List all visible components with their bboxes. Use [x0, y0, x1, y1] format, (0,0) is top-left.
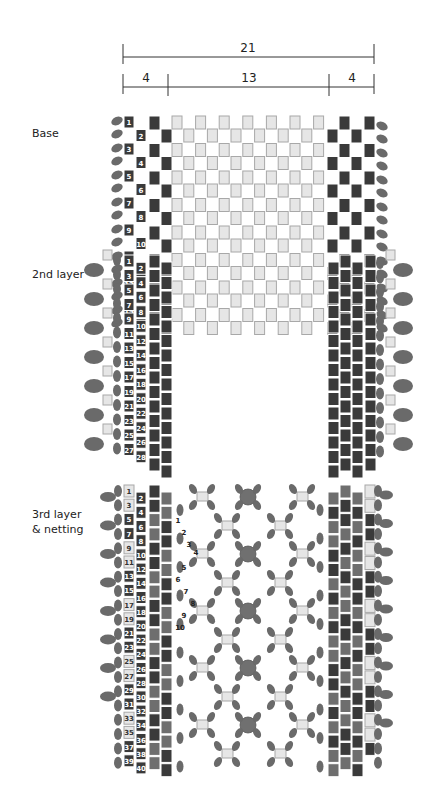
dark-bead [149, 171, 160, 185]
oval-bead [376, 286, 384, 298]
light-bead [386, 424, 395, 434]
bead-number: 2 [139, 495, 144, 503]
light-bead [103, 395, 112, 405]
light-bead [231, 322, 241, 335]
dark-bead [161, 157, 172, 171]
dark-bead [339, 226, 350, 240]
dark-bead [340, 357, 351, 370]
dark-bead [351, 212, 362, 226]
dimension-lines: 21 4 13 4 [123, 41, 374, 96]
light-bead [266, 226, 276, 239]
light-bead [231, 184, 241, 197]
light-bead [386, 308, 395, 318]
bead-number: 34 [136, 722, 146, 730]
dark-bead [365, 299, 376, 312]
dark-bead [352, 465, 363, 478]
light-bead [207, 129, 217, 142]
light-bead [172, 144, 182, 157]
dark-bead [161, 212, 172, 226]
bead-number: 19 [124, 616, 134, 624]
dark-bead [327, 212, 338, 226]
dark-bead [328, 320, 339, 333]
dark-bead [161, 306, 172, 319]
light-bead [172, 281, 182, 294]
bead-number: 16 [136, 367, 146, 375]
light-bead [103, 308, 112, 318]
dark-bead [149, 415, 160, 428]
dark-bead [328, 678, 339, 691]
oval-bead [317, 618, 324, 630]
light-bead [196, 254, 206, 267]
dark-bead [340, 685, 351, 698]
bead-number: 13 [124, 345, 134, 353]
netting-marker: 8 [191, 600, 196, 608]
light-bead [231, 267, 241, 280]
oval-bead [317, 647, 324, 659]
mid-bead [340, 714, 351, 727]
netting-marker: 2 [182, 529, 187, 537]
light-bead [184, 129, 194, 142]
bead-number: 14 [136, 352, 146, 360]
oval-bead [376, 431, 384, 443]
bead-number: 11 [124, 331, 134, 339]
bead-number: 8 [139, 214, 144, 222]
oval-bead [317, 533, 324, 545]
oval-bead [374, 757, 382, 769]
oval-bead [177, 732, 184, 744]
oval-bead [110, 209, 124, 221]
light-bead [365, 542, 375, 555]
dark-bead [365, 628, 375, 641]
light-bead [219, 254, 229, 267]
light-bead [297, 663, 308, 672]
light-bead [184, 184, 194, 197]
light-bead [278, 267, 288, 280]
oval-bead [177, 675, 184, 687]
oval-bead [374, 728, 382, 740]
oval-bead [317, 761, 324, 773]
light-bead [196, 171, 206, 184]
light-bead [302, 267, 312, 280]
bead-number: 37 [124, 744, 134, 752]
mid-bead [352, 678, 363, 691]
dark-bead [365, 415, 376, 428]
dark-bead [161, 129, 172, 143]
bead-number: 27 [124, 673, 134, 681]
dim-right: 4 [348, 71, 356, 85]
light-bead [172, 309, 182, 322]
oval-bead [100, 635, 116, 645]
oval-bead [113, 269, 121, 281]
light-bead [278, 212, 288, 225]
bead-number: 39 [124, 758, 134, 766]
oval-bead [379, 662, 393, 671]
dark-bead [149, 255, 160, 268]
oval-bead [113, 356, 121, 368]
bead-number: 8 [139, 538, 144, 546]
bead-number: 36 [136, 737, 146, 745]
oval-bead [110, 128, 124, 140]
dark-bead [149, 542, 160, 555]
light-bead [290, 281, 300, 294]
mid-bead [352, 549, 363, 562]
dark-bead [149, 599, 160, 612]
light-bead [266, 199, 276, 212]
oval-bead [113, 428, 121, 440]
oval-bead [114, 714, 122, 726]
dark-bead [352, 291, 363, 304]
dark-bead [365, 270, 376, 283]
bead-number: 1 [127, 119, 132, 127]
light-bead [278, 322, 288, 335]
mid-bead [352, 721, 363, 734]
light-bead [275, 749, 286, 758]
dark-bead [149, 614, 160, 627]
dark-bead [328, 262, 339, 275]
dark-bead [328, 451, 339, 464]
bead-number: 13 [124, 573, 134, 581]
oval-bead [110, 142, 124, 154]
oval-bead [100, 549, 116, 559]
oval-bead [375, 133, 389, 145]
bead-number: 3 [127, 273, 132, 281]
mid-bead [352, 606, 363, 619]
mid-bead [340, 757, 351, 770]
oval-bead [376, 301, 384, 313]
bead-number: 9 [127, 316, 132, 324]
